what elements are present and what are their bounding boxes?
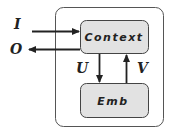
u-label: U [76,60,89,76]
input-label: I [13,16,21,32]
emb-box-label: Emb [97,95,128,108]
context-box-label: Context [84,31,143,44]
output-label: O [10,41,23,57]
diagram-canvas: Context Emb I O U V [0,0,173,132]
